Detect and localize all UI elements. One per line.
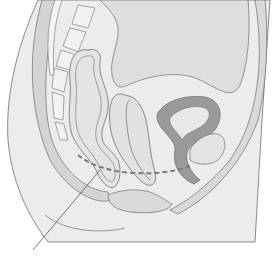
pelvic-anatomy-figure xyxy=(0,0,273,256)
